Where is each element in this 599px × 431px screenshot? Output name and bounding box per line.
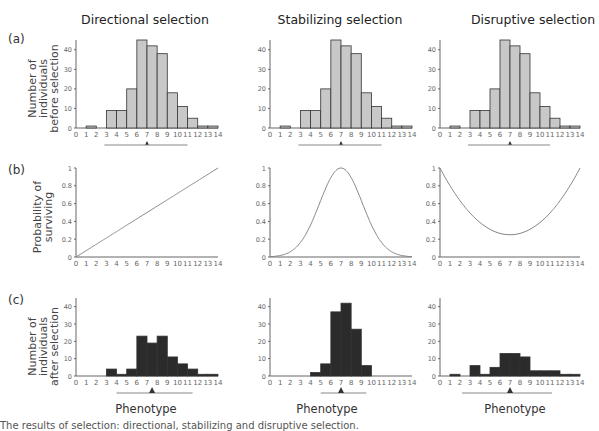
x-tick-label: 4 <box>114 379 119 387</box>
y-tick-label: 1 <box>68 165 72 173</box>
x-tick-label: 10 <box>173 379 182 387</box>
histogram-bar <box>490 367 500 376</box>
y-tick-label: 20 <box>258 85 266 93</box>
histogram-bar <box>311 373 321 376</box>
y-tick-label: 0.6 <box>426 200 436 208</box>
histogram-bar <box>540 106 550 128</box>
x-tick-label: 5 <box>318 260 322 268</box>
histogram-bar <box>147 46 157 128</box>
histogram-bar <box>371 106 381 128</box>
y-tick-label: 0 <box>262 254 266 262</box>
x-tick-label: 3 <box>298 379 302 387</box>
x-tick-label: 5 <box>124 379 128 387</box>
x-tick-label: 8 <box>349 131 353 139</box>
y-tick-label: 10 <box>428 355 436 363</box>
histogram-bar <box>127 89 137 128</box>
x-tick-label: 1 <box>84 260 88 268</box>
x-tick-label: 12 <box>556 379 565 387</box>
y-tick-label: 20 <box>64 338 72 346</box>
y-tick-label: 0.6 <box>62 200 72 208</box>
y-tick-label: 10 <box>64 355 72 363</box>
histogram-bar <box>480 374 490 376</box>
x-tick-label: 12 <box>387 379 396 387</box>
histogram-bar <box>177 364 187 376</box>
x-tick-label: 6 <box>329 260 334 268</box>
histogram-bar <box>188 118 198 128</box>
x-tick-label: 1 <box>448 379 452 387</box>
x-tick-label: 9 <box>359 379 363 387</box>
x-tick-label: 4 <box>478 379 483 387</box>
histogram-bar <box>361 366 371 376</box>
x-tick-label: 12 <box>193 131 202 139</box>
x-tick-label: 14 <box>576 379 585 387</box>
histogram-bar <box>137 40 147 128</box>
histogram-bar <box>106 369 116 376</box>
x-tick-label: 3 <box>104 379 108 387</box>
histogram-bar <box>560 374 570 376</box>
x-tick-label: 4 <box>114 131 119 139</box>
histogram-bar <box>117 374 127 376</box>
x-tick-label: 11 <box>377 379 386 387</box>
histogram-bar <box>351 54 361 128</box>
x-tick-label: 5 <box>124 260 128 268</box>
x-tick-label: 5 <box>488 379 492 387</box>
y-tick-label: 30 <box>64 321 72 329</box>
y-tick-label: 10 <box>258 105 266 113</box>
x-tick-label: 13 <box>397 260 406 268</box>
histogram-bar <box>167 93 177 128</box>
y-tick-label: 0.8 <box>256 182 266 190</box>
x-tick-label: 4 <box>114 260 119 268</box>
survival-curve <box>76 168 218 257</box>
histogram-bar <box>311 110 321 128</box>
x-tick-label: 6 <box>498 131 503 139</box>
x-tick-label: 3 <box>468 131 472 139</box>
survival-curve <box>440 168 580 235</box>
x-tick-label: 1 <box>84 379 88 387</box>
x-tick-label: 11 <box>546 260 555 268</box>
histogram-bar <box>550 371 560 376</box>
x-tick-label: 8 <box>155 379 159 387</box>
y-tick-label: 30 <box>428 66 436 74</box>
x-tick-label: 1 <box>278 260 282 268</box>
histogram-bar <box>382 118 392 128</box>
histogram-bar <box>157 336 167 376</box>
x-tick-label: 0 <box>268 131 272 139</box>
x-tick-label: 14 <box>214 131 223 139</box>
x-tick-label: 9 <box>528 379 532 387</box>
y-tick-label: 1 <box>262 165 266 173</box>
x-tick-label: 10 <box>536 379 545 387</box>
y-tick-label: 10 <box>258 355 266 363</box>
x-tick-label: 4 <box>308 131 313 139</box>
x-tick-label: 12 <box>387 131 396 139</box>
y-tick-label: 30 <box>258 321 266 329</box>
x-tick-label: 14 <box>576 131 585 139</box>
y-tick-label: 40 <box>258 303 266 311</box>
x-tick-label: 3 <box>104 131 108 139</box>
y-tick-label: 30 <box>428 321 436 329</box>
histogram-bar <box>520 54 530 128</box>
y-tick-label: 0.4 <box>62 218 72 226</box>
x-tick-label: 14 <box>214 260 223 268</box>
x-tick-label: 14 <box>408 260 417 268</box>
x-tick-label: 14 <box>408 131 417 139</box>
x-tick-label: 8 <box>518 260 522 268</box>
x-tick-label: 13 <box>397 379 406 387</box>
y-tick-label: 1 <box>432 165 436 173</box>
histogram-bar <box>198 374 208 376</box>
x-tick-label: 6 <box>135 379 140 387</box>
x-tick-label: 9 <box>528 260 532 268</box>
x-tick-label: 6 <box>498 379 503 387</box>
histogram-bar <box>300 110 310 128</box>
x-tick-label: 0 <box>74 131 78 139</box>
x-tick-label: 6 <box>329 379 334 387</box>
y-tick-label: 0.4 <box>256 218 266 226</box>
y-tick-label: 0 <box>262 373 266 381</box>
histogram-bar <box>127 369 137 376</box>
x-tick-label: 11 <box>377 131 386 139</box>
histogram-bar <box>351 329 361 376</box>
x-tick-label: 3 <box>104 260 108 268</box>
x-tick-label: 12 <box>387 260 396 268</box>
x-tick-label: 9 <box>528 131 532 139</box>
x-tick-label: 7 <box>339 379 343 387</box>
x-tick-label: 1 <box>448 131 452 139</box>
